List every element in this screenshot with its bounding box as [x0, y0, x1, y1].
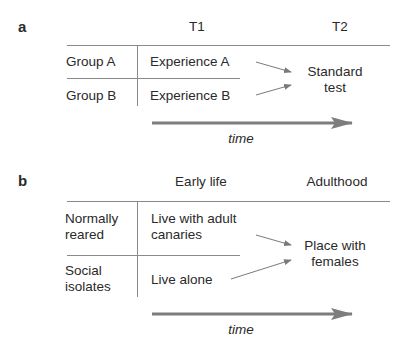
arrow-icon	[231, 260, 291, 279]
arrow-icon	[256, 235, 291, 245]
time-axis-label: time	[228, 322, 254, 338]
arrow-icon	[256, 85, 291, 95]
panel-a-arrows	[0, 0, 407, 170]
panel-a: a T1 T2 Group A Experience A Group B Exp…	[0, 0, 407, 170]
time-axis-label: time	[228, 131, 254, 147]
panel-b: b Early life Adulthood Normally reared L…	[0, 171, 407, 341]
panel-b-arrows	[0, 171, 407, 346]
arrow-icon	[256, 62, 291, 72]
